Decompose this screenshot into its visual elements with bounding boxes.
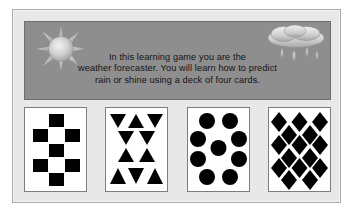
card-squares[interactable]: [24, 107, 87, 192]
card-triangles[interactable]: [105, 107, 168, 192]
instruction-banner: In this learning game you are the weathe…: [24, 21, 331, 100]
triangles-pattern: [106, 108, 167, 191]
instruction-text: In this learning game you are the weathe…: [25, 22, 330, 99]
card-diamonds[interactable]: [268, 107, 331, 192]
diamonds-pattern: [269, 108, 330, 191]
instruction-line-2: weather forecaster. You will learn how t…: [78, 63, 277, 75]
game-panel: In this learning game you are the weathe…: [12, 9, 341, 203]
squares-pattern: [25, 108, 86, 191]
instruction-line-1: In this learning game you are the: [109, 52, 246, 64]
card-deck: [24, 107, 331, 193]
instruction-line-3: rain or shine using a deck of four cards…: [95, 75, 260, 87]
game-intro-screen: In this learning game you are the weathe…: [0, 0, 355, 213]
circles-pattern: [188, 108, 249, 191]
card-circles[interactable]: [187, 107, 250, 192]
